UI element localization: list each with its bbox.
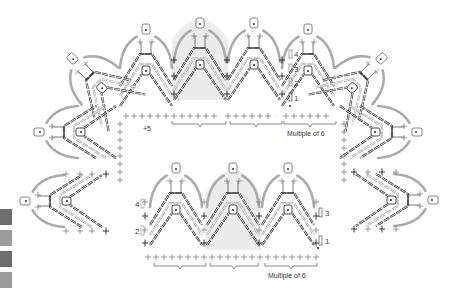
svg-text:2: 2 <box>135 227 140 236</box>
left-corner-motifs <box>34 37 145 158</box>
repeat-label-lower: Multiple of 6 <box>268 272 306 280</box>
row-markers-lower-left: 4 2 <box>135 199 144 236</box>
row-markers-lower-right: 3 1 <box>317 208 330 249</box>
svg-text:1: 1 <box>294 94 299 103</box>
crochet-chart: +5 Multiple of 6 4 3 2 1 <box>0 0 454 300</box>
upper-chart: +5 Multiple of 6 4 3 2 1 <box>34 18 422 183</box>
right-corner-motifs <box>309 37 422 158</box>
svg-text:1: 1 <box>325 237 330 246</box>
svg-text:3: 3 <box>325 209 330 218</box>
row-markers-upper: 4 3 2 1 <box>289 50 299 107</box>
svg-text:3: 3 <box>294 65 299 74</box>
repeat-label-upper: Multiple of 6 <box>287 130 325 138</box>
lower-chart: Multiple of 6 4 2 3 1 <box>135 163 330 280</box>
corner-offset-label: +5 <box>143 125 151 132</box>
right-side-motif <box>351 169 438 233</box>
svg-text:4: 4 <box>135 200 140 209</box>
svg-text:2: 2 <box>294 79 299 88</box>
repeat-braces-upper <box>172 121 336 127</box>
left-side-motif <box>20 171 109 235</box>
svg-text:4: 4 <box>294 50 299 59</box>
repeat-braces-lower <box>154 263 317 269</box>
